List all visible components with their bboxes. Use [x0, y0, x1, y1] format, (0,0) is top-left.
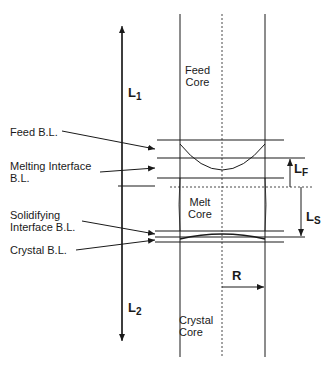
crystal-core-label: Crystal Core — [179, 314, 213, 338]
solidifying-bl-leader — [82, 221, 155, 234]
boundary-lines — [118, 140, 314, 242]
melting-bl-leader — [100, 168, 155, 172]
lf-label: LF — [294, 161, 308, 176]
solidifying-interface-bl-label: Solidifying Interface B.L. — [10, 209, 75, 233]
radius-label: R — [232, 268, 241, 283]
diagram-canvas — [0, 0, 328, 369]
feed-core-label: Feed Core — [185, 64, 210, 88]
feed-bl-label: Feed B.L. — [10, 126, 58, 138]
feed-bl-leader — [62, 131, 155, 149]
melting-interface-bl-label: Melting Interface B.L. — [10, 160, 91, 184]
l2-label: L2 — [128, 300, 142, 315]
l1-label: L1 — [128, 85, 142, 100]
melt-core-label: Melt Core — [188, 196, 212, 220]
melting-interface-curve — [180, 144, 265, 170]
crystal-bl-label: Crystal B.L. — [10, 244, 67, 256]
ls-label: LS — [306, 209, 321, 224]
crystal-bl-leader — [76, 240, 155, 250]
